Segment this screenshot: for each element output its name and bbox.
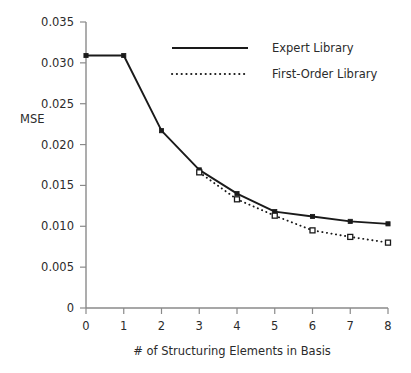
- x-tick-label: 0: [82, 319, 89, 333]
- x-axis-tick-labels: 012345678: [82, 319, 391, 333]
- y-axis-ticks: [80, 22, 86, 308]
- x-tick-label: 3: [196, 319, 203, 333]
- y-tick-label: 0.030: [41, 56, 74, 70]
- y-tick-label: 0.035: [41, 15, 74, 29]
- y-axis-tick-labels: 00.0050.0100.0150.0200.0250.0300.035: [41, 15, 74, 315]
- data-point-marker-expert-library: [235, 192, 239, 196]
- y-tick-label: 0.015: [41, 178, 74, 192]
- data-point-marker-expert-library: [122, 53, 126, 57]
- x-axis-ticks: [86, 308, 388, 314]
- data-point-marker-expert-library: [310, 214, 314, 218]
- x-tick-label: 8: [384, 319, 391, 333]
- x-axis-group: 012345678: [82, 308, 391, 333]
- x-tick-label: 2: [158, 319, 165, 333]
- data-point-marker-first-order-library: [386, 240, 391, 245]
- x-axis-title: # of Structuring Elements in Basis: [133, 344, 331, 358]
- legend-label-first-order-library: First-Order Library: [272, 67, 377, 81]
- data-point-marker-first-order-library: [235, 197, 240, 202]
- data-point-marker-first-order-library: [197, 170, 202, 175]
- data-point-marker-first-order-library: [272, 213, 277, 218]
- data-point-marker-expert-library: [84, 53, 88, 57]
- y-tick-label: 0: [67, 301, 74, 315]
- x-tick-label: 1: [120, 319, 127, 333]
- x-tick-label: 7: [347, 319, 354, 333]
- y-tick-label: 0.010: [41, 219, 74, 233]
- data-series-layer: [84, 53, 391, 245]
- x-tick-label: 5: [271, 319, 278, 333]
- line-chart-canvas: 00.0050.0100.0150.0200.0250.0300.035 012…: [0, 0, 411, 373]
- data-point-marker-expert-library: [348, 219, 352, 223]
- y-tick-label: 0.020: [41, 138, 74, 152]
- data-point-marker-expert-library: [159, 129, 163, 133]
- x-tick-label: 4: [233, 319, 240, 333]
- data-point-marker-expert-library: [386, 222, 390, 226]
- data-point-marker-first-order-library: [310, 228, 315, 233]
- y-axis-title: MSE: [20, 112, 45, 126]
- legend: Expert Library First-Order Library: [172, 41, 377, 81]
- y-tick-label: 0.005: [41, 260, 74, 274]
- series-line-first-order-library: [199, 172, 388, 242]
- chart-figure: 00.0050.0100.0150.0200.0250.0300.035 012…: [0, 0, 411, 373]
- data-point-marker-first-order-library: [348, 234, 353, 239]
- y-tick-label: 0.025: [41, 97, 74, 111]
- y-axis-group: 00.0050.0100.0150.0200.0250.0300.035: [41, 15, 86, 315]
- legend-label-expert-library: Expert Library: [272, 41, 354, 55]
- x-tick-label: 6: [309, 319, 316, 333]
